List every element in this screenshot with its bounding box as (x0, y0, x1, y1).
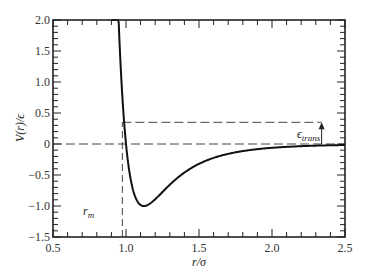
y-tick-label: 2.0 (35, 13, 50, 27)
rm-label: rm (83, 204, 95, 220)
x-axis-title: r/σ (192, 255, 207, 269)
y-tick-label: −0.5 (28, 168, 50, 182)
x-tick-labels: 0.51.01.52.02.5 (46, 241, 353, 255)
y-tick-label: 1.5 (35, 44, 50, 58)
y-tick-label: 0 (44, 137, 50, 151)
y-tick-labels: 2.01.51.00.50−0.5−1.0−1.5 (28, 13, 50, 244)
lennard-jones-chart: 2.01.51.00.50−0.5−1.0−1.5 0.51.01.52.02.… (0, 0, 365, 280)
potential-curve (111, 20, 345, 206)
x-tick-label: 0.5 (46, 241, 61, 255)
etrans-label: ϵtrans (297, 127, 321, 143)
x-tick-label: 2.5 (338, 241, 353, 255)
y-axis-title: V(r)/ϵ (13, 113, 27, 142)
arrow-head-icon (319, 122, 325, 129)
x-tick-label: 1.0 (119, 241, 134, 255)
y-tick-label: 0.5 (35, 106, 50, 120)
x-tick-label: 1.5 (192, 241, 207, 255)
x-tick-label: 2.0 (265, 241, 280, 255)
y-tick-label: −1.0 (28, 199, 50, 213)
y-tick-label: 1.0 (35, 75, 50, 89)
